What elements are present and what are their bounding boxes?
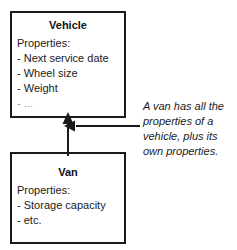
properties-label-van: Properties:	[17, 183, 124, 198]
uml-diagram-canvas: Vehicle Properties: - Next service date …	[0, 0, 237, 250]
annotation-arrow	[64, 119, 140, 133]
property-item: - Wheel size	[17, 66, 124, 81]
annotation-line-text: own properties.	[143, 144, 235, 159]
annotation-note: A van has all the properties of a vehicl…	[143, 99, 235, 159]
class-properties-vehicle: Properties: - Next service date - Wheel …	[12, 36, 124, 111]
property-item: - etc.	[17, 213, 124, 228]
property-item: - Next service date	[17, 51, 124, 66]
annotation-arrowhead-icon	[64, 121, 75, 132]
class-title-vehicle: Vehicle	[12, 19, 124, 32]
class-properties-van: Properties: - Storage capacity - etc.	[12, 183, 124, 228]
property-item: - Weight	[17, 81, 124, 96]
property-item: - ...	[17, 96, 124, 111]
annotation-line-text: vehicle, plus its	[143, 129, 235, 144]
class-box-van[interactable]: Van Properties: - Storage capacity - etc…	[10, 152, 126, 244]
property-item: - Storage capacity	[17, 198, 124, 213]
properties-label-vehicle: Properties:	[17, 36, 124, 51]
annotation-line-text: A van has all the	[143, 99, 235, 114]
annotation-line-text: properties of a	[143, 114, 235, 129]
class-box-vehicle[interactable]: Vehicle Properties: - Next service date …	[10, 11, 126, 118]
class-title-van: Van	[12, 166, 124, 179]
